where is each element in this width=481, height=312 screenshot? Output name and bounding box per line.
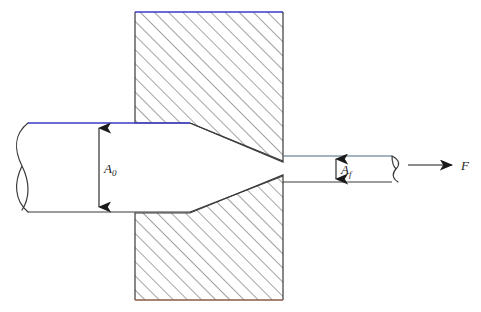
force-label: F [460,158,470,173]
dimension-a0-label: A0 [103,161,117,178]
force-arrow-group: F [408,158,470,173]
lower-die-hatching [130,170,292,306]
dimension-af: Af [336,159,353,179]
wire-drawing-figure: A0 Af F [0,0,481,312]
break-symbol-left [17,123,28,212]
dimension-af-label: Af [340,162,353,179]
dimension-a0: A0 [99,128,117,207]
upper-die [130,5,292,170]
break-symbol-right [392,156,399,182]
diagram-canvas: A0 Af F [0,0,481,312]
upper-die-hatching [130,5,292,170]
lower-die [130,170,292,306]
